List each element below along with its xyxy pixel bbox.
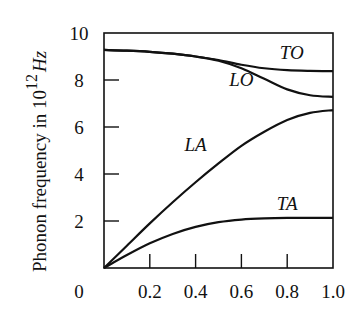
- y-axis-title: Phonon frequency in 1012Hz: [23, 50, 50, 272]
- phonon-dispersion-chart: 00.20.40.60.81.0246810 TOLOLATA Phonon f…: [0, 0, 362, 317]
- label-la: LA: [184, 134, 208, 155]
- series-curves: [104, 50, 333, 268]
- plot-frame: [104, 33, 333, 268]
- y-tick-label: 8: [74, 70, 84, 91]
- x-tick-label: 0.6: [230, 281, 254, 302]
- x-tick-label: 0.8: [275, 281, 299, 302]
- x-tick-label: 1.0: [321, 281, 345, 302]
- label-lo: LO: [228, 69, 254, 90]
- label-to: TO: [280, 42, 304, 63]
- curve-ta: [104, 218, 333, 268]
- curve-la: [104, 110, 333, 268]
- label-ta: TA: [277, 193, 298, 214]
- y-axis-title-text: Phonon frequency in 1012Hz: [23, 50, 50, 272]
- series-labels: TOLOLATA: [184, 42, 305, 215]
- x-tick-label: 0.4: [184, 281, 208, 302]
- x-tick-label: 0: [74, 281, 84, 302]
- y-tick-label: 10: [70, 23, 89, 44]
- y-tick-label: 6: [74, 117, 84, 138]
- plot-border: [104, 33, 333, 268]
- y-tick-label: 4: [74, 164, 84, 185]
- y-tick-label: 2: [74, 211, 84, 232]
- x-tick-label: 0.2: [138, 281, 162, 302]
